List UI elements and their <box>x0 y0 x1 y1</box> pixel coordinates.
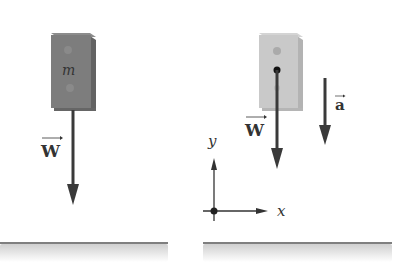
acceleration-label: a <box>335 96 345 114</box>
left-block-hole-top <box>64 46 72 54</box>
right-panel: W a y x <box>203 33 392 262</box>
x-axis-label: x <box>277 202 286 220</box>
x-axis-arrowhead <box>256 208 268 214</box>
right-ground-shadow <box>203 244 392 262</box>
left-panel: m W <box>0 33 168 262</box>
origin-dot <box>211 208 218 215</box>
left-weight-arrowhead <box>67 184 79 205</box>
right-weight-arrowhead <box>271 148 283 169</box>
left-ground-shadow <box>0 244 168 262</box>
right-weight-label: W <box>244 120 265 140</box>
left-block-hole-bottom <box>66 84 74 92</box>
right-block-hole-top <box>273 47 281 55</box>
y-axis-arrowhead <box>211 158 217 170</box>
free-body-diagram: m W W a y <box>0 0 404 275</box>
y-axis-label: y <box>207 132 217 150</box>
left-weight-label: W <box>40 141 61 161</box>
mass-label: m <box>62 62 75 78</box>
acceleration-arrowhead <box>319 125 331 145</box>
